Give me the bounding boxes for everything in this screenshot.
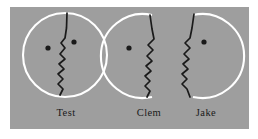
test-dot-left <box>45 45 50 50</box>
stimulus-label-jake: Jake <box>182 107 230 119</box>
stimulus-figure: Test Clem Jake <box>0 0 258 139</box>
stimulus-label-clem: Clem <box>122 107 176 119</box>
clem-profile-line <box>145 15 154 97</box>
clem-arc-outline <box>101 14 152 98</box>
test-dot-right <box>71 39 76 44</box>
test-profile-line <box>58 13 67 95</box>
stimulus-label-test: Test <box>34 107 98 119</box>
stimulus-jake <box>182 14 244 98</box>
stimulus-test <box>23 13 107 97</box>
stimulus-clem <box>101 14 154 98</box>
clem-dot <box>126 45 131 50</box>
jake-arc-outline <box>193 14 244 98</box>
gray-panel: Test Clem Jake <box>10 7 249 129</box>
jake-dot <box>201 39 206 44</box>
test-circle-outline <box>23 13 107 97</box>
jake-profile-line <box>182 14 194 97</box>
